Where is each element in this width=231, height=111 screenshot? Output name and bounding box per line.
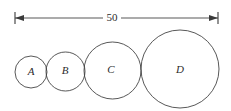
circle-label-a: A — [27, 65, 35, 77]
dimension-label: 50 — [107, 11, 119, 23]
circle-label-d: D — [175, 63, 184, 75]
circle-label-b: B — [62, 64, 69, 76]
figure-svg: 50 A B C D — [0, 0, 231, 111]
figure-canvas: 50 A B C D — [0, 0, 231, 111]
arrow-left-icon — [15, 15, 24, 21]
arrow-right-icon — [209, 15, 218, 21]
circle-label-c: C — [107, 63, 115, 75]
